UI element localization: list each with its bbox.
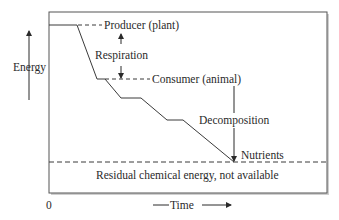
energy-flow-diagram: Producer (plant) Respiration Consumer (a… [0, 0, 339, 220]
origin-label: 0 [46, 199, 52, 211]
producer-label: Producer (plant) [104, 19, 179, 32]
nutrients-label: Nutrients [241, 149, 284, 161]
residual-label: Residual chemical energy, not available [96, 169, 279, 182]
energy-axis-label: Energy [13, 61, 46, 74]
respiration-label: Respiration [95, 49, 148, 62]
decomposition-label: Decomposition [199, 114, 270, 127]
plot-frame [49, 12, 327, 193]
consumer-label: Consumer (animal) [152, 73, 241, 86]
time-axis-label: Time [170, 199, 194, 211]
